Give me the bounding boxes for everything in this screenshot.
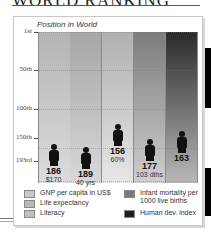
rank-marker-life-expectancy: 189 40 yrs [70,147,101,187]
chart-panel: Position in World 1st 50th 100th 150th 1… [13,16,203,226]
legend-swatch [124,190,135,198]
legend-label-line1: Infant mortality per [140,189,198,196]
rank-marker-human-dev-index: 163 [166,131,197,163]
rank-value: 163 [166,153,197,163]
legend-swatch [124,210,135,218]
person-icon [144,139,156,161]
legend-label: GNP per capita in US$ [40,189,111,197]
legend-label: Life expectancy [40,199,89,207]
legend-item-human-dev-index: Human dev. index [124,209,196,218]
y-tick-mark [34,32,38,33]
legend-item-life-expectancy: Life expectancy [24,199,89,208]
person-icon [112,124,124,146]
person-icon [80,147,92,169]
y-tick-label: 150th [12,133,32,141]
y-tick-mark [34,138,38,139]
rank-marker-literacy: 156 60% [102,124,133,164]
rank-value: 177 [134,161,165,171]
chart-title: Position in World [37,20,97,29]
rank-sublabel: 60% [102,156,133,164]
rank-marker-infant-mortality: 177 103 dths [134,139,165,179]
legend-label: Human dev. index [140,209,196,217]
legend-label-line2: 1000 live births [140,197,187,204]
plot-area: 1st 50th 100th 150th 193rd 186 $170 189 … [38,32,198,183]
legend-item-gnp: GNP per capita in US$ [24,189,111,198]
decorative-bar [205,48,211,108]
header-rule [12,5,200,6]
legend: GNP per capita in US$ Life expectancy Li… [24,189,199,225]
legend-item-literacy: Literacy [24,209,65,218]
rank-value: 189 [70,169,101,179]
y-tick-label: 1st [12,27,32,35]
gridline [38,70,198,71]
y-tick-label: 193rd [12,156,32,164]
legend-label: Infant mortality per1000 live births [140,189,198,205]
legend-swatch [24,200,35,208]
y-tick-label: 50th [12,65,32,73]
rank-value: 156 [102,146,133,156]
gridline [38,109,198,110]
legend-item-infant-mortality: Infant mortality per1000 live births [124,189,198,205]
legend-swatch [24,190,35,198]
rank-sublabel: $170 [38,176,69,184]
gridline [38,32,198,33]
rank-marker-gnp: 186 $170 [38,144,69,184]
decorative-bar [205,168,211,216]
y-tick-label: 100th [12,104,32,112]
rank-sublabel: 40 yrs [70,179,101,187]
y-tick-mark [34,70,38,71]
y-tick-mark [34,109,38,110]
legend-label: Literacy [40,209,65,217]
rank-value: 186 [38,166,69,176]
person-icon [48,144,60,166]
legend-swatch [24,210,35,218]
person-icon [176,131,188,153]
rank-sublabel: 103 dths [134,171,165,179]
